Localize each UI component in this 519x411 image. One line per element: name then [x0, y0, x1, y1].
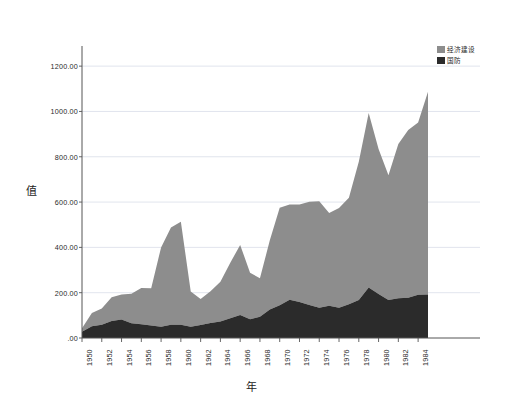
chart-legend: 经济建设国防 [437, 44, 515, 66]
defense-swatch [437, 57, 445, 64]
economic-swatch [437, 46, 445, 53]
legend-item[interactable]: 经济建设 [437, 44, 515, 55]
legend-label: 经济建设 [447, 44, 475, 55]
legend-item[interactable]: 国防 [437, 55, 515, 66]
legend-label: 国防 [447, 55, 461, 66]
chart-figure: 值 年 .00200.00400.00600.00800.001000.0012… [0, 0, 519, 411]
